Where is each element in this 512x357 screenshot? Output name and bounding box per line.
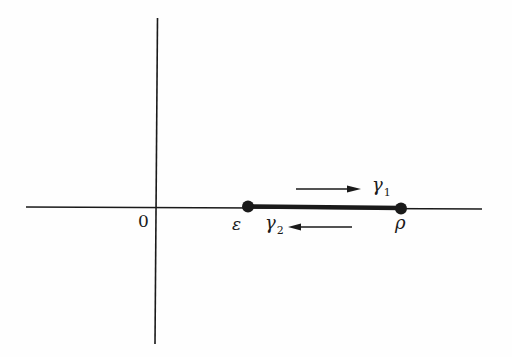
gamma2-subscript: 2: [277, 224, 284, 237]
gamma1-subscript: 1: [384, 186, 391, 199]
gamma1-symbol: γ: [372, 174, 383, 195]
diagram-canvas: 0 ε ρ γ1 γ2: [0, 0, 512, 357]
gamma2-arrow-icon: [288, 224, 352, 231]
gamma2-symbol: γ: [265, 212, 276, 233]
gamma1-arrow-icon: [296, 186, 361, 193]
gamma1-label: γ1: [372, 176, 390, 194]
epsilon-point: [242, 201, 254, 213]
diagram-svg: [0, 0, 512, 357]
rho-label: ρ: [395, 214, 406, 232]
origin-label: 0: [138, 213, 149, 230]
vertical-axis: [155, 18, 158, 344]
contour-segment: [248, 207, 401, 209]
gamma2-label: γ2: [265, 214, 283, 232]
epsilon-label: ε: [232, 216, 241, 233]
